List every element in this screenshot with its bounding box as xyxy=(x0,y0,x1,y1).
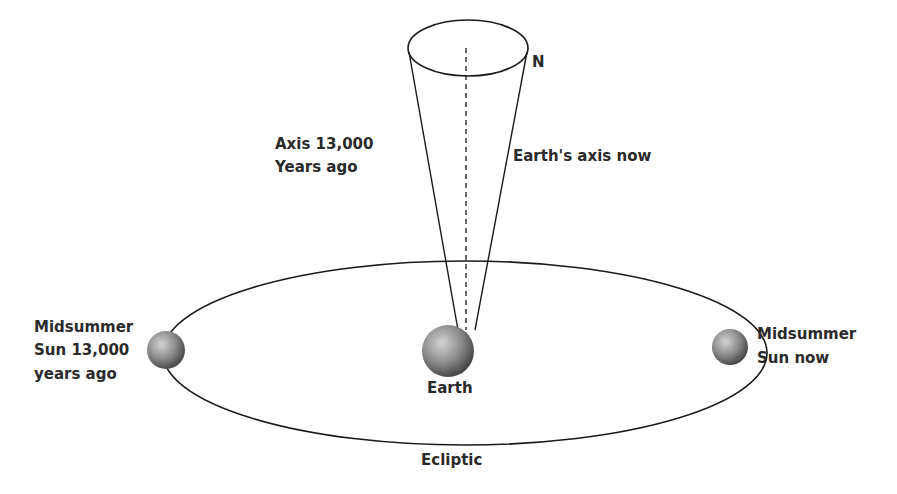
earth-sphere xyxy=(422,325,474,377)
axis-past-label-line2: Years ago xyxy=(275,157,358,177)
sun-past-label-line3: years ago xyxy=(34,364,117,384)
earth-label: Earth xyxy=(427,378,473,398)
axis-now-line xyxy=(475,52,527,330)
axis-past-label-line1: Axis 13,000 xyxy=(275,134,373,154)
north-label: N xyxy=(532,52,545,72)
precession-diagram xyxy=(0,0,897,494)
sun-now-label-line2: Sun now xyxy=(757,348,829,368)
sun-past-sphere xyxy=(147,331,185,369)
sun-past-label-line1: Midsummer xyxy=(34,317,133,337)
axis-past-line xyxy=(409,52,458,330)
sun-past-label-line2: Sun 13,000 xyxy=(34,340,129,360)
sun-now-label-line1: Midsummer xyxy=(757,324,856,344)
axis-now-label: Earth's axis now xyxy=(513,146,651,166)
ecliptic-label: Ecliptic xyxy=(421,450,482,470)
precession-cone-top xyxy=(408,20,528,76)
sun-now-sphere xyxy=(712,329,748,365)
